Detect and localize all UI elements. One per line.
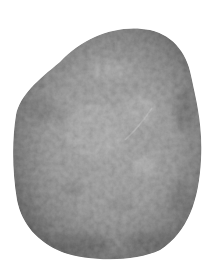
stone-image: [0, 0, 215, 272]
image-canvas: [0, 0, 215, 272]
